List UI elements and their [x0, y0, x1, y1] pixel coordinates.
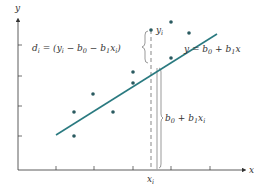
axes: y x: [14, 3, 254, 175]
data-point: [187, 31, 191, 35]
data-point: [91, 92, 95, 96]
fitted-value-label: b0 + b1xi: [165, 113, 205, 125]
data-point: [111, 110, 115, 114]
x-axis-ticks: [56, 166, 210, 170]
data-point: [72, 110, 76, 114]
residual-brace-icon: [142, 31, 148, 63]
data-point: [131, 70, 135, 74]
data-point: [169, 56, 173, 60]
residual-label: di = (yi − b0 − b1xi): [32, 43, 121, 55]
data-point: [131, 81, 135, 85]
x-axis-label: x: [249, 165, 254, 175]
yi-label: yi: [155, 25, 163, 37]
data-point: [149, 28, 153, 32]
data-point: [169, 20, 173, 24]
y-axis-ticks: [18, 45, 22, 136]
data-point: [72, 134, 76, 138]
y-axis-label: y: [14, 3, 21, 13]
regression-diagram: y x di = (yi − b0 − b1xi) yi y = b0 + b1…: [0, 0, 254, 185]
regression-equation-label: y = b0 + b1x: [183, 44, 241, 56]
fitted-brace-icon: [159, 68, 163, 168]
xi-label: xi: [147, 174, 154, 185]
